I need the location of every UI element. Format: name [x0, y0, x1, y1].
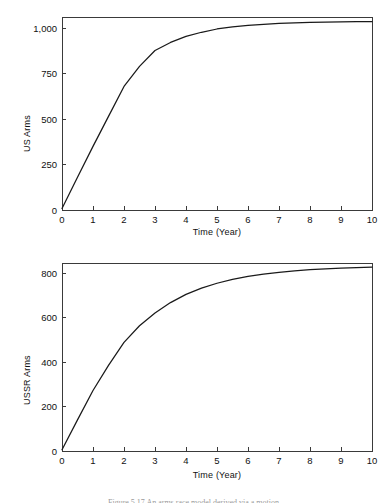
x-tick-label: 5: [214, 455, 219, 466]
x-tick-label: 10: [367, 455, 378, 466]
y-tick-label: 250: [41, 159, 57, 170]
y-tick-label: 800: [41, 268, 57, 279]
x-axis-title-us: Time (Year): [62, 227, 372, 237]
x-tick-label: 9: [338, 214, 343, 225]
x-tick-label: 7: [276, 455, 281, 466]
x-tick-label: 1: [90, 455, 95, 466]
plot-frame: [62, 263, 372, 451]
x-tick-label: 7: [276, 214, 281, 225]
x-tick-label: 8: [307, 214, 312, 225]
data-line: [62, 22, 372, 209]
y-axis-title-ussr: USSR Arms: [22, 355, 32, 405]
y-tick-label: 750: [41, 68, 57, 79]
x-tick-label: 0: [59, 214, 64, 225]
y-tick-label: 1,000: [33, 23, 57, 34]
figure-arms-race: 01234567891002505007501,000 US Arms Time…: [0, 0, 387, 503]
x-tick-label: 2: [121, 455, 126, 466]
x-tick-label: 10: [367, 214, 378, 225]
x-tick-label: 6: [245, 455, 250, 466]
x-tick-label: 5: [214, 214, 219, 225]
x-tick-label: 2: [121, 214, 126, 225]
x-tick-label: 1: [90, 214, 95, 225]
ussr-arms-plot: 0123456789100200400600800: [0, 245, 387, 493]
x-tick-label: 6: [245, 214, 250, 225]
y-tick-label: 400: [41, 357, 57, 368]
x-axis-title-ussr: Time (Year): [62, 470, 372, 480]
y-tick-label: 600: [41, 312, 57, 323]
x-tick-label: 3: [152, 455, 157, 466]
data-line: [62, 267, 372, 449]
y-tick-label: 0: [52, 446, 57, 457]
y-tick-label: 500: [41, 114, 57, 125]
chart-ussr-arms: 0123456789100200400600800 USSR Arms Time…: [0, 245, 387, 493]
x-tick-label: 4: [183, 455, 188, 466]
x-tick-label: 8: [307, 455, 312, 466]
y-tick-label: 200: [41, 401, 57, 412]
y-tick-label: 0: [52, 205, 57, 216]
x-tick-label: 0: [59, 455, 64, 466]
y-axis-title-us: US Arms: [22, 115, 32, 152]
x-tick-label: 3: [152, 214, 157, 225]
x-tick-label: 4: [183, 214, 188, 225]
chart-us-arms: 01234567891002505007501,000 US Arms Time…: [0, 0, 387, 240]
plot-frame: [62, 17, 372, 210]
figure-caption: Figure 5.17 An arms race model derived v…: [0, 496, 387, 503]
us-arms-plot: 01234567891002505007501,000: [0, 0, 387, 240]
x-tick-label: 9: [338, 455, 343, 466]
